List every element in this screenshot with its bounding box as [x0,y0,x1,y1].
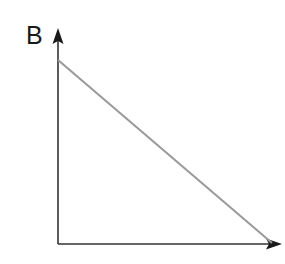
y-axis-label: B [26,23,43,48]
figure-canvas: B [0,0,285,264]
data-line-series-1 [58,60,272,243]
plot-area [0,0,285,264]
